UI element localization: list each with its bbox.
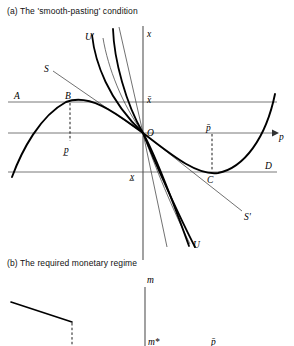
label-m-star: m* [148,337,160,346]
p-axis-arrow-icon [272,130,279,137]
figure-svg: A B x̄ O p̄ p̲ x̲ C D x p U' U S S' m m*… [0,0,294,346]
label-S: S [44,64,49,74]
label-B: B [65,91,71,101]
label-C: C [207,175,214,185]
label-p-lower: p̲ [62,145,69,156]
label-x-upper: x̄ [146,95,152,105]
label-U: U [193,240,201,250]
S-extension-lower [143,133,167,247]
label-m-axis: m [147,275,154,285]
dashed-drop-lines [70,103,212,171]
m-schedule-curve [11,302,72,322]
label-p-upper-b: p̄ [210,337,216,346]
label-x-lower: x̲ [129,172,135,182]
label-A: A [13,91,20,101]
label-p-upper: p̄ [205,123,211,133]
label-D: D [264,161,272,171]
label-origin: O [147,128,154,138]
U-prime-curve [92,35,189,246]
label-p-axis: p [278,132,284,142]
label-U-prime: U' [85,32,95,42]
label-x-axis: x [146,29,152,39]
S-extension-upper [119,27,143,133]
U-curve [113,29,195,247]
label-S-prime: S' [244,212,252,222]
figure-container: (a) The 'smooth-pasting' condition (b) T… [0,0,294,346]
